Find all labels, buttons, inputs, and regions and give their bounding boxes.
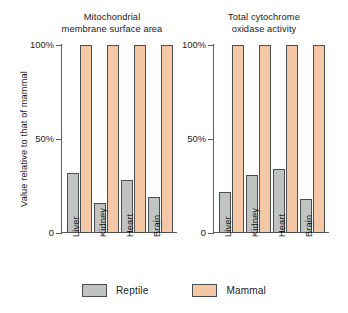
y-tick-label-50: 50% <box>187 133 206 144</box>
y-axis-title: Value relative to that of mammal <box>19 39 29 239</box>
bar-mammal-kidney <box>259 45 271 233</box>
panel-title: Mitochondrial membrane surface area <box>36 11 188 35</box>
y-tick-label-0: 0 <box>49 227 54 238</box>
bar-mammal-liver <box>232 45 244 233</box>
legend-item-mammal: Mammal <box>192 284 266 297</box>
panel-title-line-2: oxidase activity <box>188 23 340 35</box>
category-label-liver: Liver <box>223 216 233 237</box>
legend-item-reptile: Reptile <box>82 284 149 297</box>
panel-title-line-1: Total cytochrome <box>188 11 340 23</box>
panel-title-line-2: membrane surface area <box>36 23 188 35</box>
bar-mammal-brain <box>313 45 325 233</box>
bar-mammal-brain <box>161 45 173 233</box>
bar-mammal-kidney <box>107 45 119 233</box>
category-label-brain: Brain <box>304 215 314 237</box>
category-label-kidney: Kidney <box>250 208 260 237</box>
category-label-brain: Brain <box>152 215 162 237</box>
bar-mammal-heart <box>286 45 298 233</box>
panel-title-line-1: Mitochondrial <box>36 11 188 23</box>
legend-label-reptile: Reptile <box>116 285 149 296</box>
plot-area: 0 50% 100% Liver Kidney <box>61 45 176 233</box>
plot-area: 0 50% 100% Liver Kidney <box>213 45 328 233</box>
category-label-kidney: Kidney <box>98 208 108 237</box>
bar-mammal-liver <box>80 45 92 233</box>
panel-total-cytochrome-oxidase-activity: Total cytochrome oxidase activity 0 50% … <box>188 0 340 280</box>
category-label-liver: Liver <box>71 216 81 237</box>
chart-legend: Reptile Mammal <box>0 284 348 297</box>
y-tick-label-100: 100% <box>30 39 54 50</box>
category-label-heart: Heart <box>125 214 135 237</box>
panel-title: Total cytochrome oxidase activity <box>188 11 340 35</box>
panel-mitochondrial-membrane-surface-area: Mitochondrial membrane surface area 0 50… <box>36 0 188 280</box>
bar-mammal-heart <box>134 45 146 233</box>
y-tick-label-0: 0 <box>201 227 206 238</box>
legend-swatch-mammal <box>192 284 217 297</box>
legend-label-mammal: Mammal <box>226 285 266 296</box>
bar-chart-figure: Value relative to that of mammal Mitocho… <box>0 0 348 313</box>
y-tick-label-100: 100% <box>182 39 206 50</box>
y-tick-label-50: 50% <box>35 133 54 144</box>
legend-swatch-reptile <box>82 284 107 297</box>
category-label-heart: Heart <box>277 214 287 237</box>
